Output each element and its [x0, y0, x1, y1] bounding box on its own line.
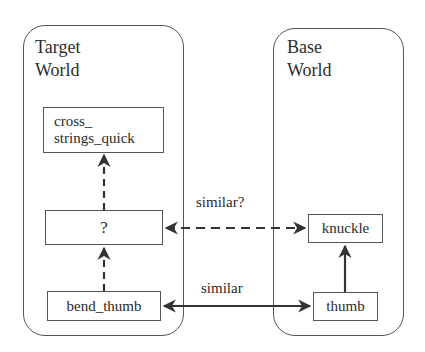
node-knuckle-label: knuckle	[322, 220, 369, 237]
node-bend-thumb: bend_thumb	[47, 291, 161, 321]
node-bend-thumb-label: bend_thumb	[67, 298, 142, 315]
node-cross-strings-quick-line1: cross_	[54, 113, 135, 130]
base-world-title-line2: World	[287, 59, 332, 82]
edge-label-similar: similar	[201, 280, 243, 297]
edge-label-similar-question: similar?	[196, 194, 244, 211]
node-unknown-label: ?	[100, 218, 108, 238]
target-world-title-line1: Target	[35, 36, 80, 59]
node-cross-strings-quick: cross_ strings_quick	[43, 107, 164, 153]
base-world-title-line1: Base	[287, 36, 332, 59]
node-thumb: thumb	[313, 292, 378, 321]
node-cross-strings-quick-line2: strings_quick	[54, 130, 135, 147]
node-thumb-label: thumb	[326, 298, 364, 315]
base-world-title: Base World	[287, 36, 332, 82]
node-knuckle: knuckle	[308, 214, 383, 243]
target-world-title: Target World	[35, 36, 80, 82]
target-world-title-line2: World	[35, 59, 80, 82]
node-unknown: ?	[45, 210, 163, 245]
